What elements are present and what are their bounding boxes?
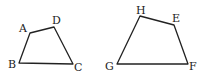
- vertex-label-g: G: [105, 60, 114, 73]
- vertex-label-a: A: [18, 22, 28, 35]
- vertex-label-c: C: [74, 61, 82, 74]
- vertex-label-d: D: [52, 14, 61, 27]
- vertex-label-b: B: [8, 58, 16, 71]
- quadrilateral-abcd: [19, 27, 73, 64]
- vertex-label-f: F: [189, 60, 197, 73]
- vertex-label-e: E: [172, 12, 180, 25]
- quadrilaterals-diagram: A D B C H E G F: [0, 0, 205, 77]
- vertex-label-h: H: [136, 4, 146, 17]
